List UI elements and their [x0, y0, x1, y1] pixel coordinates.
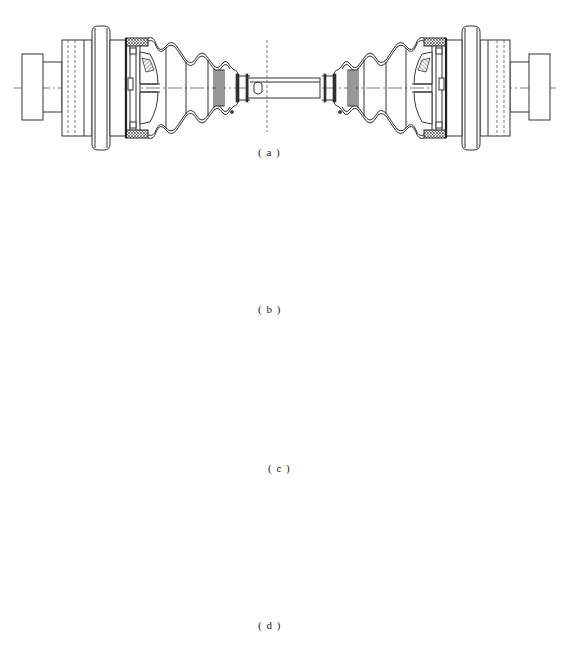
caption-b: ( b ) [258, 303, 281, 315]
subfigure-a [14, 26, 558, 150]
caption-c: ( c ) [268, 462, 291, 474]
cv-joint-drawing [0, 0, 572, 648]
housing-right-a [446, 26, 550, 150]
caption-a: ( a ) [258, 146, 281, 158]
housing-left-a [22, 26, 126, 150]
caption-d: ( d ) [258, 619, 281, 631]
